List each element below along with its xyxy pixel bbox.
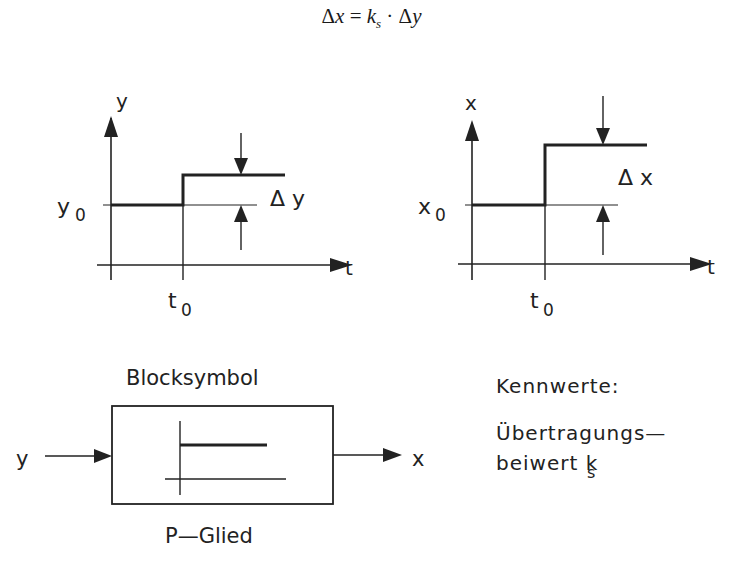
x0-label: x (418, 194, 431, 219)
y0-subscript: 0 (75, 205, 86, 225)
input-arrow-icon (94, 449, 112, 463)
block-title: Blocksymbol (126, 366, 259, 390)
block-input-label: y (16, 447, 28, 471)
parameters-line-1: Übertragungs— (496, 421, 666, 445)
block-symbol: Blocksymbol y x P—Glied (16, 366, 424, 548)
y-axis-arrow-icon (104, 116, 118, 137)
step-signal (111, 175, 285, 205)
t-axis-label: t (345, 256, 353, 280)
parameters-text: Kennwerte: Übertragungs— beiwert k s (496, 374, 666, 482)
parameters-line-2: beiwert k (496, 451, 598, 475)
y-axis-label: y (116, 89, 128, 113)
input-step-plot: y t y 0 t 0 Δ y (57, 89, 353, 320)
y0-label: y (57, 194, 70, 219)
t0-subscript: 0 (543, 300, 554, 320)
delta-arrow-up-icon (234, 205, 248, 222)
block-caption: P—Glied (165, 524, 253, 548)
diagram-canvas: y t y 0 t 0 Δ y x t x 0 t 0 Δ x Blocksym… (0, 0, 743, 573)
block-output-label: x (412, 447, 424, 471)
t0-label: t (168, 288, 177, 313)
delta-arrow-up-icon (596, 205, 610, 222)
delta-y-label: Δ y (270, 186, 305, 211)
output-arrow-icon (383, 448, 402, 462)
t-axis-label: t (707, 255, 715, 279)
t0-subscript: 0 (181, 300, 192, 320)
x0-subscript: 0 (435, 205, 446, 225)
parameters-heading: Kennwerte: (496, 374, 620, 398)
delta-x-label: Δ x (618, 165, 653, 190)
x-axis-arrow-icon (465, 120, 479, 141)
delta-arrow-down-icon (596, 128, 610, 145)
output-step-plot: x t x 0 t 0 Δ x (418, 91, 715, 320)
t0-label: t (530, 288, 539, 313)
parameters-ks-subscript: s (587, 463, 595, 482)
x-axis-label: x (465, 91, 477, 115)
delta-arrow-down-icon (234, 158, 248, 175)
transfer-block (112, 406, 333, 504)
